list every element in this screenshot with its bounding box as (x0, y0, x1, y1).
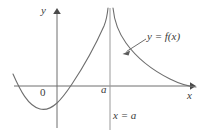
y-axis-label: y (41, 5, 46, 16)
y-axis (53, 8, 61, 128)
function-label: y = f(x) (147, 31, 180, 42)
curve-right-branch (113, 8, 196, 87)
y-axis-arrowhead (53, 8, 61, 14)
origin-label: 0 (40, 87, 46, 98)
asymptote-tick-label: a (101, 84, 107, 95)
x-axis-label: x (187, 90, 192, 101)
leader-line (127, 39, 147, 52)
leader-arrowhead (123, 51, 131, 56)
figure-canvas (0, 0, 207, 140)
math-figure: y x 0 a x = a y = f(x) (0, 0, 207, 140)
asymptote-equation-label: x = a (113, 110, 136, 121)
curve-left-branch (13, 8, 108, 109)
